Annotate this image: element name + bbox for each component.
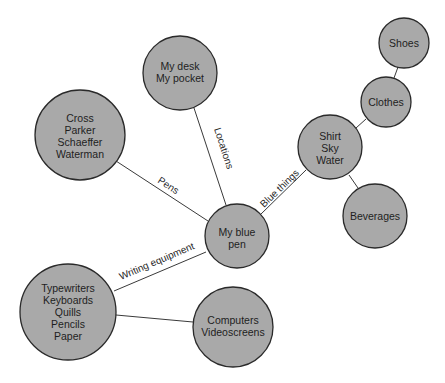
- node-writing-equipment[interactable]: Typewriters Keyboards Quills Pencils Pap…: [20, 264, 116, 360]
- node-text: Pencils: [51, 318, 85, 330]
- node-clothes[interactable]: Clothes: [361, 77, 411, 127]
- node-text: Parker: [65, 124, 96, 136]
- edge-clothes: [356, 119, 366, 128]
- node-computers[interactable]: Computers Videoscreens: [193, 287, 273, 367]
- node-pens[interactable]: Cross Parker Schaeffer Waterman: [35, 90, 125, 180]
- edge-label-pens: Pens: [156, 174, 181, 196]
- node-text: Schaeffer: [58, 136, 103, 148]
- node-text: Clothes: [368, 96, 404, 108]
- edge-computers: [116, 315, 193, 322]
- node-text: Beverages: [350, 210, 400, 222]
- edge-beverages: [349, 175, 358, 188]
- node-text: Quills: [55, 306, 81, 318]
- node-text: My pocket: [156, 72, 204, 84]
- node-text: Keyboards: [43, 294, 93, 306]
- node-text: Paper: [54, 330, 83, 342]
- node-text: Videoscreens: [201, 326, 264, 338]
- node-text: Cross: [66, 112, 93, 124]
- node-beverages[interactable]: Beverages: [343, 184, 407, 248]
- node-blue-things[interactable]: Shirt Sky Water: [298, 115, 362, 179]
- edge-shoes: [394, 67, 398, 78]
- node-text: Sky: [321, 142, 339, 154]
- node-text: Shoes: [389, 37, 419, 49]
- node-text: pen: [228, 238, 246, 250]
- concept-map: Locations Pens Blue things Writing equip…: [0, 0, 445, 383]
- node-text: Waterman: [56, 148, 104, 160]
- node-text: My desk: [160, 60, 200, 72]
- node-locations[interactable]: My desk My pocket: [143, 36, 217, 110]
- node-text: Shirt: [319, 130, 341, 142]
- edge-label-locations: Locations: [212, 126, 236, 170]
- node-shoes[interactable]: Shoes: [379, 18, 429, 68]
- edge-label-blue-things: Blue things: [258, 167, 301, 209]
- node-text: Computers: [207, 314, 258, 326]
- node-text: My blue: [219, 226, 256, 238]
- node-text: Typewriters: [41, 282, 95, 294]
- node-text: Water: [316, 154, 344, 166]
- node-my-blue-pen[interactable]: My blue pen: [205, 204, 269, 268]
- edge-pens: [116, 161, 208, 221]
